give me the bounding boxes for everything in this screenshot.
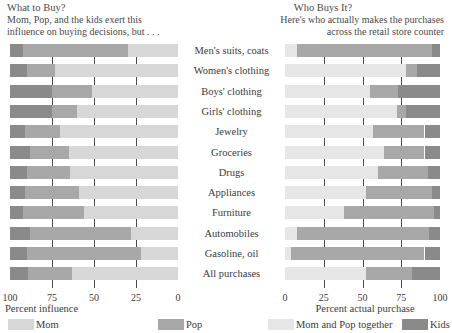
bar-segment-pop [366,186,433,199]
bar-segment-kids [10,206,23,219]
bar-segment-kids [398,85,440,98]
bar-segment-pop [406,64,417,77]
bar-row [10,146,178,159]
bar-segment-mom-and-pop-together [285,146,384,159]
bar-row [285,105,440,118]
bar-segment-mom [72,267,178,280]
bar-segment-pop [297,227,429,240]
category-label: Gasoline, oil [178,247,285,260]
bar-segment-kids [10,227,30,240]
bar-segment-mom-and-pop-together [285,227,297,240]
category-label-column: Men's suits, coatsWomen's clothingBoys' … [178,44,285,288]
bar-segment-mom-and-pop-together [285,166,378,179]
category-label: Men's suits, coats [178,44,285,57]
bar-segment-pop [28,267,72,280]
right-chart-axis-label: Percent actual purchase [285,303,445,314]
bar-segment-pop [27,247,141,260]
bar-row [10,247,178,260]
bar-segment-mom-and-pop-together [285,125,373,138]
bar-row [10,64,178,77]
right-panel-subtitle-line2: across the retail store counter [232,26,444,38]
bar-segment-kids [432,44,440,57]
axis-tick-25: 25 [124,291,148,304]
bar-segment-kids [10,44,23,57]
bar-segment-pop [384,146,424,159]
bar-segment-kids [434,206,440,219]
bar-segment-pop [370,85,398,98]
bar-segment-mom-and-pop-together [285,267,366,280]
bar-segment-pop [344,206,434,219]
bar-row [10,227,178,240]
bar-segment-kids [417,64,440,77]
chart-legend: MomPopMom and Pop togetherKids [0,318,449,333]
bar-segment-kids [10,247,27,260]
bar-segment-mom-and-pop-together [285,85,370,98]
bar-segment-pop [23,44,127,57]
left-panel-header: What to Buy? Mom, Pop, and the kids exer… [7,2,217,38]
bar-row [10,44,178,57]
bar-row [10,105,178,118]
category-label: Groceries [178,146,285,159]
category-label: Drugs [178,166,285,179]
bar-segment-mom [141,247,178,260]
bar-segment-kids [10,85,52,98]
bar-segment-pop [366,267,413,280]
bar-segment-kids [428,166,440,179]
bar-segment-pop [378,166,428,179]
bar-row [285,166,440,179]
category-label: All purchases [178,267,285,280]
bar-row [10,85,178,98]
left-chart-axis-label: Percent influence [5,303,78,314]
category-label: Furniture [178,206,285,219]
category-label: Jewelry [178,125,285,138]
bar-row [10,206,178,219]
bar-row [285,146,440,159]
bar-segment-pop [30,146,69,159]
legend-label: Pop [186,318,202,331]
bar-segment-mom [55,64,178,77]
legend-label: Mom [36,318,59,331]
bar-segment-pop [27,64,56,77]
bar-segment-mom [84,206,178,219]
bar-segment-kids [429,227,440,240]
bar-row [285,247,440,260]
right-panel-header: Who Buys It? Here's who actually makes t… [232,2,444,38]
bar-row [285,64,440,77]
bar-segment-kids [10,105,52,118]
bar-segment-kids [10,146,30,159]
bar-segment-pop [25,125,60,138]
bar-segment-mom [128,44,178,57]
bar-segment-kids [10,166,27,179]
bar-segment-kids [425,247,441,260]
bar-row [285,44,440,57]
category-label: Automobiles [178,227,285,240]
bar-row [10,186,178,199]
bar-segment-kids [406,105,440,118]
right-panel-subtitle-line1: Here's who actually makes the purchases [232,14,444,26]
category-label: Women's clothing [178,64,285,77]
bar-segment-pop [373,125,424,138]
bar-segment-mom [60,125,178,138]
bar-segment-mom-and-pop-together [285,64,406,77]
axis-tick-0: 0 [166,291,190,304]
bar-segment-mom-and-pop-together [285,105,397,118]
legend-swatch [402,319,428,330]
bar-row [285,85,440,98]
left-panel-subtitle-line1: Mom, Pop, and the kids exert this [7,14,217,26]
bar-row [285,125,440,138]
legend-label: Mom and Pop together [296,318,393,331]
bar-segment-pop [25,186,79,199]
bar-segment-mom [77,105,178,118]
bar-row [285,267,440,280]
bar-segment-mom [79,186,178,199]
bar-segment-mom [92,85,178,98]
right-chart-plot-area [285,44,440,288]
bar-segment-mom [70,166,178,179]
category-label: Appliances [178,186,285,199]
bar-segment-pop [297,44,432,57]
bar-segment-pop [30,227,131,240]
bar-row [285,206,440,219]
right-panel-title: Who Buys It? [232,2,444,14]
bar-segment-kids [425,125,441,138]
bar-segment-mom-and-pop-together [285,186,366,199]
